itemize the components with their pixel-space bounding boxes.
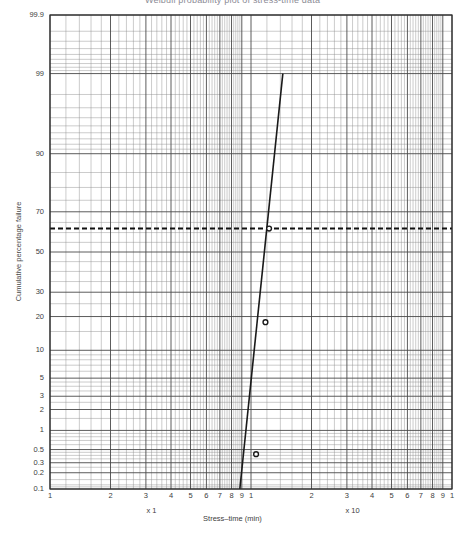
x-tick-label: 3 [337,492,357,500]
probability-plot-figure: Weibull probability plot of stress-time … [0,0,465,538]
data-point-marker [254,452,259,457]
y-tick-label: 0.5 [4,446,44,454]
y-tick-label: 50 [4,248,44,256]
y-tick-label: 1 [4,426,44,434]
x-tick-label: 2 [302,492,322,500]
figure-title-clipped: Weibull probability plot of stress-time … [0,0,465,6]
x-tick-label: 4 [362,492,382,500]
figure-footer-clipped [0,530,465,538]
y-tick-label: 99 [4,70,44,78]
x-axis-title: Stress–time (min) [0,514,465,523]
x-tick-label: 2 [101,492,121,500]
y-tick-label: 20 [4,313,44,321]
y-tick-label: 90 [4,150,44,158]
y-tick-label: 99.9 [4,11,44,19]
data-point-marker [263,320,268,325]
grid-major [50,15,452,489]
x-tick-label: 4 [161,492,181,500]
plot-canvas [0,0,465,538]
x-tick-label: 1 [442,492,462,500]
y-tick-label: 3 [4,392,44,400]
y-tick-label: 2 [4,406,44,414]
y-tick-label: 10 [4,346,44,354]
x-tick-label: 1 [40,492,60,500]
x-tick-label: 1 [241,492,261,500]
y-tick-label: 0.3 [4,459,44,467]
y-tick-label: 5 [4,374,44,382]
figure-title-text: Weibull probability plot of stress-time … [0,0,465,6]
x-tick-label: 3 [136,492,156,500]
data-point-marker [267,226,272,231]
y-tick-label: 0.1 [4,485,44,493]
y-tick-label: 0.2 [4,469,44,477]
y-tick-label: 30 [4,288,44,296]
y-tick-label: 70 [4,208,44,216]
